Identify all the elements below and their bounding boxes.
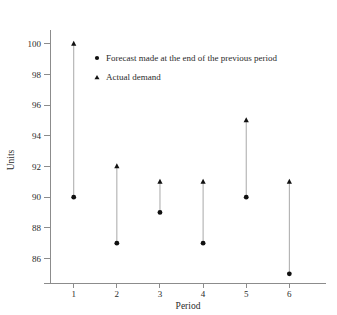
x-tick-label: 5 <box>244 289 249 299</box>
x-tick-label: 4 <box>201 289 206 299</box>
legend-label-actual: Actual demand <box>106 72 161 82</box>
x-tick-label: 6 <box>287 289 292 299</box>
y-tick-label: 98 <box>32 70 42 80</box>
legend-circle-marker-icon <box>95 56 99 60</box>
y-tick-label: 90 <box>32 192 42 202</box>
forecast-point-marker <box>71 195 76 200</box>
legend-label-forecast: Forecast made at the end of the previous… <box>106 53 277 63</box>
actual-point-marker <box>71 41 76 46</box>
forecast-point-marker <box>287 271 292 276</box>
y-tick-label: 88 <box>32 223 42 233</box>
x-tick-label: 3 <box>158 289 163 299</box>
y-tick-label: 96 <box>32 100 42 110</box>
y-tick-label: 100 <box>28 39 42 49</box>
forecast-point-marker <box>114 241 119 246</box>
y-axis-ticks: 86889092949698100 <box>28 39 51 264</box>
y-axis-title: Units <box>6 149 16 170</box>
y-tick-label: 94 <box>32 131 42 141</box>
y-tick-label: 86 <box>32 254 42 264</box>
chart-legend: Forecast made at the end of the previous… <box>95 53 278 82</box>
legend-triangle-marker-icon <box>95 75 100 79</box>
actual-point-marker <box>114 163 119 168</box>
actual-point-marker <box>200 179 205 184</box>
chart-canvas: 86889092949698100 123456 Period Units Fo… <box>0 0 337 315</box>
forecast-series-points <box>71 195 291 276</box>
x-tick-label: 1 <box>71 289 76 299</box>
x-axis-ticks: 123456 <box>71 283 292 299</box>
forecast-point-marker <box>244 195 249 200</box>
x-axis-title: Period <box>176 301 201 311</box>
y-tick-label: 92 <box>32 162 41 172</box>
chart-figure: 86889092949698100 123456 Period Units Fo… <box>0 0 337 315</box>
x-tick-label: 2 <box>115 289 120 299</box>
forecast-point-marker <box>201 241 206 246</box>
actual-point-marker <box>244 117 249 122</box>
actual-point-marker <box>157 179 162 184</box>
actual-point-marker <box>287 179 292 184</box>
forecast-point-marker <box>158 210 163 215</box>
